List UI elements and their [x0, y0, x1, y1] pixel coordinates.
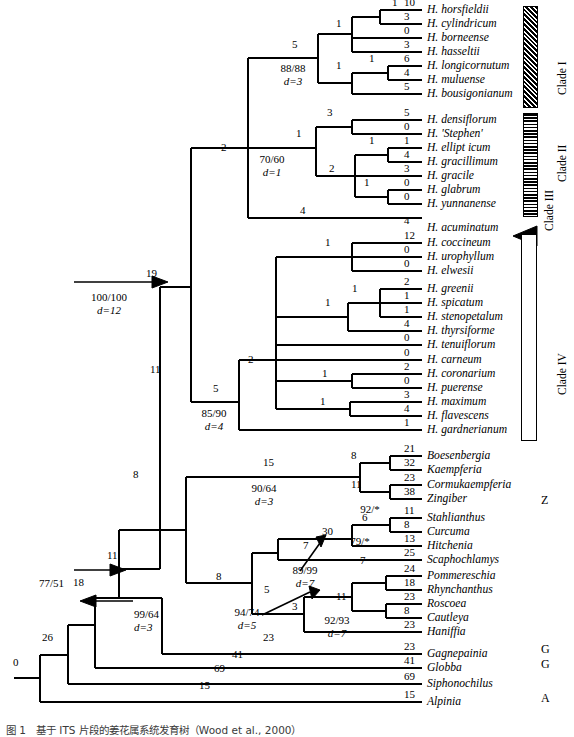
taxon-label: H. ellipt icum: [427, 142, 490, 154]
taxon-label: Cormukaempferia: [427, 479, 511, 491]
branch-length-label: 32: [404, 457, 415, 468]
branch-length-label: 1: [392, 0, 398, 8]
decay-index-value: d=3: [251, 495, 276, 508]
taxon-label: H. coronarium: [427, 368, 496, 380]
branch-length-label: 10: [404, 0, 415, 8]
branch-length-label: 3: [292, 601, 298, 612]
branch-length-label: 5: [404, 81, 410, 92]
branch-length-label: 0: [404, 121, 410, 132]
branch-length-label: 1: [325, 237, 331, 248]
branch-length-label: 23: [404, 591, 415, 602]
taxon-label: Pommereschia: [427, 570, 495, 582]
branch-length-label: 15: [404, 689, 415, 700]
taxon-label: H. flavescens: [427, 410, 489, 422]
taxon-label: H. gardnerianum: [427, 424, 507, 436]
taxon-label: H. puerense: [427, 382, 483, 394]
branch-length-label: 0: [404, 258, 410, 269]
branch-length-label: 1: [364, 177, 370, 188]
branch-length-label: 4: [404, 403, 410, 414]
taxon-label: H. densiflorum: [427, 114, 497, 126]
taxon-label: H. borneense: [427, 32, 489, 44]
taxon-label: Haniffia: [427, 626, 466, 638]
branch-length-label: 1: [404, 135, 410, 146]
branch-length-label: 38: [404, 486, 415, 497]
taxon-label: H. tenuiflorum: [427, 339, 495, 351]
branch-length-label: 3: [404, 39, 410, 50]
branch-length-label: 0: [404, 191, 410, 202]
taxon-label: Scaphochlamys: [427, 554, 499, 566]
taxon-label: H. greenii: [427, 283, 474, 295]
branch-length-label: 0: [404, 332, 410, 343]
group-letter: G: [541, 642, 550, 657]
branch-length-label: 1: [296, 128, 302, 139]
taxon-label: Siphonochilus: [427, 678, 493, 690]
decay-index-value: d=3: [280, 75, 305, 88]
branch-length-label: 8: [216, 571, 222, 582]
taxon-label: H. horsfieldii: [427, 4, 489, 16]
branch-length-label: 25: [404, 547, 415, 558]
taxon-label: H. yunnanense: [427, 198, 496, 210]
branch-length-label: 7: [360, 555, 366, 566]
support-value-group: 92/93d=7: [324, 614, 349, 639]
bootstrap-value: 90/64: [251, 482, 276, 495]
taxon-label: H. acuminatum: [427, 222, 499, 234]
taxon-label: H. carneum: [427, 354, 482, 366]
taxon-label: Cautleya: [427, 612, 469, 624]
branch-length-label: 8: [404, 519, 410, 530]
clade-1-bar: [523, 6, 538, 108]
taxon-label: H. spicatum: [427, 297, 483, 309]
support-value-group: 90/64d=3: [251, 482, 276, 507]
bootstrap-value: 94/74: [234, 606, 259, 619]
taxon-label: Roscoea: [427, 598, 466, 610]
branch-length-label: 69: [214, 663, 225, 674]
branch-length-label: 8: [351, 450, 357, 461]
branch-length-label: 69: [404, 671, 415, 682]
support-value-group: 85/90d=4: [201, 407, 226, 432]
taxon-label: H. gracile: [427, 170, 474, 182]
taxon-label: Hitchenia: [427, 540, 473, 552]
branch-length-label: 13: [404, 533, 415, 544]
bootstrap-value: 92/*: [360, 503, 380, 516]
taxon-label: H. stenopetalum: [427, 311, 503, 323]
taxon-label: Rhynchanthus: [427, 584, 493, 596]
branch-length-label: 1: [322, 368, 328, 379]
branch-length-label: 5: [264, 584, 270, 595]
taxon-label: H. gracillimum: [427, 156, 498, 168]
branch-length-label: 15: [263, 457, 274, 468]
branch-length-label: 5: [404, 107, 410, 118]
taxon-label: Alpinia: [427, 696, 461, 708]
clade-label: Clade III: [543, 190, 555, 231]
branch-length-label: 0: [404, 177, 410, 188]
taxon-label: Zingiber: [427, 493, 467, 505]
group-letter: A: [541, 691, 550, 706]
branch-length-label: 41: [404, 655, 415, 666]
branch-length-label: 1: [336, 60, 342, 71]
taxon-label: H. muluense: [427, 74, 485, 86]
branch-length-label: 7: [303, 540, 309, 551]
support-value-group: 88/88d=3: [280, 62, 305, 87]
branch-length-label: 1: [336, 18, 342, 29]
decay-index-value: d=7: [324, 627, 349, 640]
clade-label: Clade I: [556, 61, 568, 95]
branch-length-label: 23: [404, 472, 415, 483]
bootstrap-value: 88/88: [280, 62, 305, 75]
branch-length-label: 1: [404, 304, 410, 315]
branch-length-label: 0: [404, 375, 410, 386]
branch-length-label: 30: [322, 526, 333, 537]
support-value-group: 77/51: [39, 577, 64, 590]
taxon-label: Gagnepainia: [427, 648, 488, 660]
taxon-label: H. thyrsiforme: [427, 325, 495, 337]
taxon-label: H. coccineum: [427, 237, 491, 249]
branch-length-label: 1: [325, 297, 331, 308]
bootstrap-value: 100/100: [91, 291, 127, 304]
decay-index-value: d=3: [134, 621, 159, 634]
clade-label: Clade II: [556, 145, 568, 182]
bootstrap-value: 99/64: [134, 608, 159, 621]
branch-length-label: 2: [329, 163, 335, 174]
branch-length-label: 2: [404, 361, 410, 372]
branch-length-label: 23: [404, 641, 415, 652]
branch-length-label: 1: [404, 290, 410, 301]
taxon-label: Curcuma: [427, 526, 470, 538]
branch-length-label: 18: [73, 577, 84, 588]
branch-length-label: 11: [404, 505, 415, 516]
